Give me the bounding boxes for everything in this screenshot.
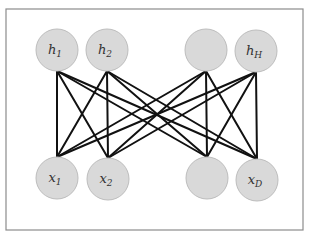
visible-node-x3 xyxy=(186,157,228,199)
hidden-node-h1: h1 xyxy=(36,29,78,71)
visible-node-x1: x1 xyxy=(36,157,78,199)
hidden-node-h3 xyxy=(185,29,227,71)
node-circle xyxy=(185,29,227,71)
edge-h2-x2 xyxy=(107,71,108,158)
visible-node-xD: xD xyxy=(236,159,278,201)
hidden-node-h2: h2 xyxy=(86,29,128,71)
edge-h3-x3 xyxy=(206,71,207,157)
network-diagram: h1h2hHx1x2xD xyxy=(0,0,312,239)
hidden-node-hH: hH xyxy=(235,30,277,72)
node-circle xyxy=(186,157,228,199)
visible-node-x2: x2 xyxy=(87,158,129,200)
edge-hH-xD xyxy=(256,72,257,159)
